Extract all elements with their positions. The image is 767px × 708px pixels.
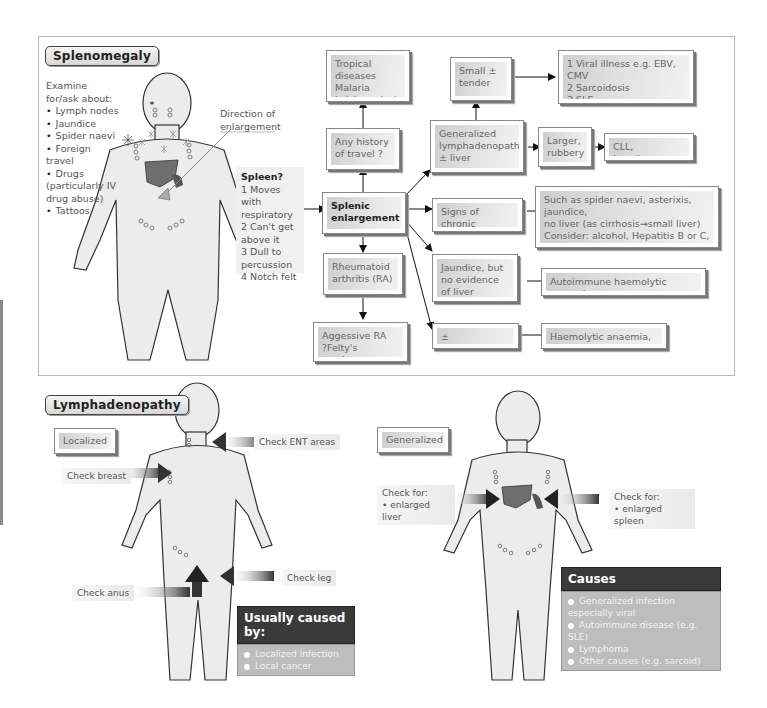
check-anus-label: Check anus — [72, 585, 134, 601]
spleen-item: 3 Dull to percussion — [241, 246, 299, 271]
direction-label: Direction of enlargement — [220, 108, 280, 133]
generalized-causes-list: Generalized infection especially viral A… — [561, 591, 721, 671]
examine-items: Lymph nodes Jaundice Spider naevi Foreig… — [46, 105, 121, 218]
spleen-item: 1 Moves with respiratory — [241, 184, 299, 222]
chronic-liver-disease-box: Signs of chronic liver disease — [432, 198, 523, 232]
check-liver-item-text: enlarged liver — [382, 500, 430, 522]
cause-item: Generalized infection especially viral — [568, 595, 714, 619]
check-spleen-title: Check for: — [614, 491, 690, 503]
splenic-enlargement-box: Splenic enlargement — [322, 192, 406, 234]
generalized-causes-title: Causes — [561, 567, 721, 591]
box-text: Tropical diseases Malaria Leishmaniasis — [331, 55, 405, 97]
check-ent-label: Check ENT areas — [254, 434, 340, 450]
examine-item: Lymph nodes — [46, 105, 121, 118]
examine-heading: Examine for/ask about: — [46, 80, 116, 105]
check-liver-title: Check for: — [382, 487, 450, 499]
box-text: CLL, lymphoma — [609, 138, 689, 156]
spleen-item: 2 Can't get above it — [241, 221, 299, 246]
box-text: Rheumatoid arthritis (RA) — [328, 258, 398, 290]
rheumatoid-arthritis-box: Rheumatoid arthritis (RA) — [323, 253, 403, 295]
box-text: Haemolytic anaemia, CML — [546, 328, 662, 344]
generalized-causes-box: Causes Generalized infection especially … — [561, 567, 721, 671]
check-spleen-label: Check for: • enlarged spleen — [609, 489, 695, 529]
box-text: Autoimmune haemolytic anaemia — [546, 273, 701, 291]
small-tender-box: Small ± tender — [450, 57, 512, 101]
travel-history-box: Any history of travel ? — [326, 128, 400, 170]
box-text: Localized — [59, 433, 111, 449]
viral-illness-box: 1 Viral illness e.g. EBV, CMV 2 Sarcoido… — [558, 50, 694, 104]
cause-item: Local cancer — [244, 660, 348, 672]
splenomegaly-title: Splenomegaly — [45, 46, 159, 66]
box-text: Aggessive RA ?Felty's syndrome — [318, 327, 403, 357]
examine-item: Tattoos — [46, 205, 121, 218]
cause-item: Autoimmune disease (e.g. SLE) — [568, 619, 714, 643]
box-text: Any history of travel ? — [331, 133, 395, 165]
check-leg-label: Check leg — [282, 570, 336, 586]
localized-causes-list: Localized infection Local cancer — [237, 644, 355, 676]
spleen-panel: Spleen? 1 Moves with respiratory 2 Can't… — [236, 167, 304, 273]
hepatomegaly-box: ± Hepatomegaly — [432, 323, 519, 349]
box-text: ± Hepatomegaly — [437, 328, 514, 344]
localized-causes-box: Usually caused by: Localized infection L… — [237, 606, 355, 676]
examine-item: Foreign travel — [46, 143, 121, 168]
localized-label-box: Localized — [54, 428, 116, 454]
autoimmune-haemolytic-box: Autoimmune haemolytic anaemia — [541, 268, 706, 296]
cll-lymphoma-box: CLL, lymphoma — [604, 133, 694, 161]
generalized-lymphadenopathy-box: Generalized lymphadenopathy ± liver — [430, 120, 524, 173]
examine-item: Spider naevi — [46, 130, 121, 143]
examine-item: Drugs (particularly IV drug abuse) — [46, 168, 121, 206]
larger-rubbery-box: Larger, rubbery — [538, 127, 592, 167]
box-text: Small ± tender — [455, 62, 507, 96]
check-liver-item: • enlarged liver — [382, 499, 450, 523]
box-text: Generalized — [382, 432, 444, 448]
check-liver-label: Check for: • enlarged liver — [377, 485, 455, 525]
lymphadenopathy-title: Lymphadenopathy — [45, 395, 189, 415]
examine-item: Jaundice — [46, 118, 121, 131]
box-text: Jaundice, but no evidence of liver disea… — [437, 259, 513, 297]
localized-causes-title: Usually caused by: — [237, 606, 355, 644]
box-text: 1 Viral illness e.g. EBV, CMV 2 Sarcoido… — [563, 55, 689, 99]
cause-item: Localized infection — [244, 648, 348, 660]
box-text: Signs of chronic liver disease — [437, 203, 518, 227]
cause-item: Other causes (e.g. sarcoid) — [568, 655, 714, 667]
box-text: Such as spider naevi, asterixis, jaundic… — [540, 191, 714, 243]
spleen-item: 4 Notch felt — [241, 271, 299, 284]
box-text: Larger, rubbery — [543, 132, 587, 162]
cause-item: Lymphoma — [568, 643, 714, 655]
check-spleen-item-text: enlarged spleen — [614, 504, 662, 526]
box-text: Splenic enlargement — [327, 197, 401, 229]
aggressive-ra-box: Aggessive RA ?Felty's syndrome — [313, 322, 408, 362]
examine-list: Examine for/ask about: Lymph nodes Jaund… — [46, 80, 121, 218]
check-breast-label: Check breast — [62, 468, 131, 484]
spider-naevi-box: Such as spider naevi, asterixis, jaundic… — [535, 186, 719, 248]
box-text: Generalized lymphadenopathy ± liver — [435, 125, 519, 168]
spleen-panel-title: Spleen? — [241, 171, 283, 182]
jaundice-box: Jaundice, but no evidence of liver disea… — [432, 254, 518, 302]
check-spleen-item: • enlarged spleen — [614, 503, 690, 527]
tropical-diseases-box: Tropical diseases Malaria Leishmaniasis — [326, 50, 410, 102]
haemolytic-cml-box: Haemolytic anaemia, CML — [541, 323, 667, 349]
generalized-label-box: Generalized — [377, 427, 449, 453]
